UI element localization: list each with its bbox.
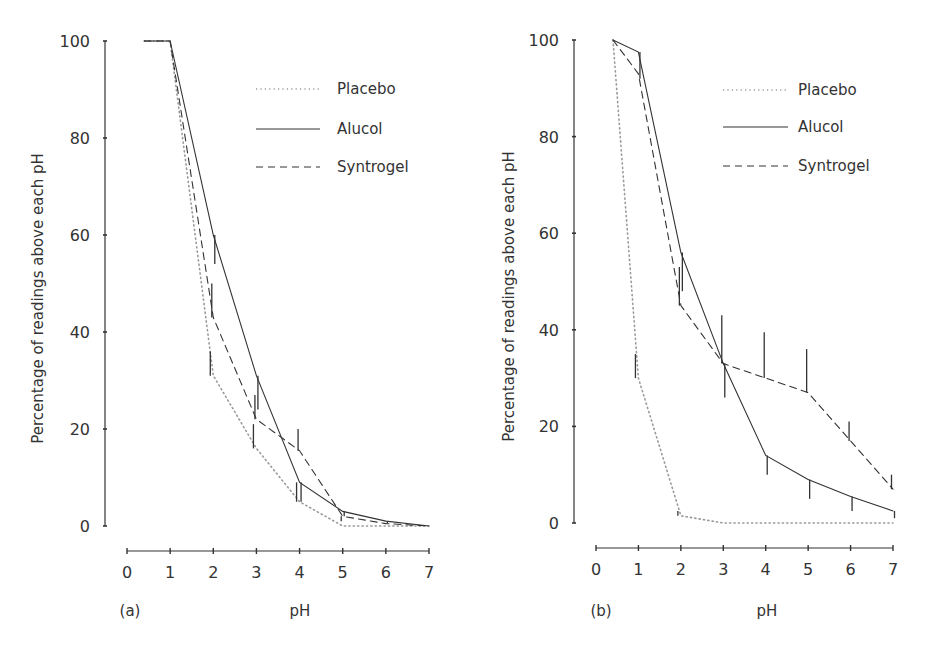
panel-label: (a) [120,602,141,620]
x-tick-label: 1 [165,563,175,582]
legend-label-alucol: Alucol [798,118,844,136]
legend-label-placebo: Placebo [337,80,396,98]
y-axis-title: Percentage of readings above each pH [29,153,47,443]
series-alucol-line [613,40,893,511]
x-axis-title: pH [290,602,311,620]
x-tick-label: 7 [888,560,898,579]
x-tick-label: 5 [803,560,813,579]
panel-a: 02040608010001234567Percentage of readin… [29,32,434,620]
y-tick-label: 40 [539,321,559,340]
y-tick-label: 80 [539,128,559,147]
legend-label-syntrogel: Syntrogel [337,158,409,176]
y-tick-label: 40 [70,323,90,342]
y-tick-label: 80 [70,129,90,148]
y-tick-label: 100 [59,32,90,51]
y-tick-label: 100 [528,31,559,50]
x-tick-label: 0 [122,563,132,582]
series-placebo-line [144,41,429,526]
panel-b: 02040608010001234567Percentage of readin… [500,31,898,620]
legend-label-alucol: Alucol [337,120,383,138]
x-axis-title: pH [757,602,778,620]
x-tick-label: 4 [761,560,771,579]
x-tick-label: 5 [338,563,348,582]
figure: 02040608010001234567Percentage of readin… [0,0,925,654]
legend-label-placebo: Placebo [798,81,857,99]
legend-label-syntrogel: Syntrogel [798,157,870,175]
y-tick-label: 0 [549,514,559,533]
x-tick-label: 2 [208,563,218,582]
x-tick-label: 3 [251,563,261,582]
x-tick-label: 7 [424,563,434,582]
x-tick-label: 3 [718,560,728,579]
x-tick-label: 6 [845,560,855,579]
series-alucol-line [144,41,429,526]
x-tick-label: 2 [676,560,686,579]
legend: PlaceboAlucolSyntrogel [723,81,870,175]
x-tick-label: 6 [381,563,391,582]
y-tick-label: 20 [539,417,559,436]
legend: PlaceboAlucolSyntrogel [256,80,409,176]
series-placebo-line [613,40,893,523]
y-tick-label: 60 [539,224,559,243]
y-axis-title: Percentage of readings above each pH [500,151,518,441]
x-tick-label: 0 [591,560,601,579]
y-tick-label: 60 [70,226,90,245]
panel-label: (b) [590,602,611,620]
series-syntrogel-line [613,40,893,489]
y-tick-label: 0 [80,517,90,536]
x-tick-label: 1 [633,560,643,579]
series-syntrogel-line [144,41,429,526]
y-tick-label: 20 [70,420,90,439]
x-tick-label: 4 [294,563,304,582]
